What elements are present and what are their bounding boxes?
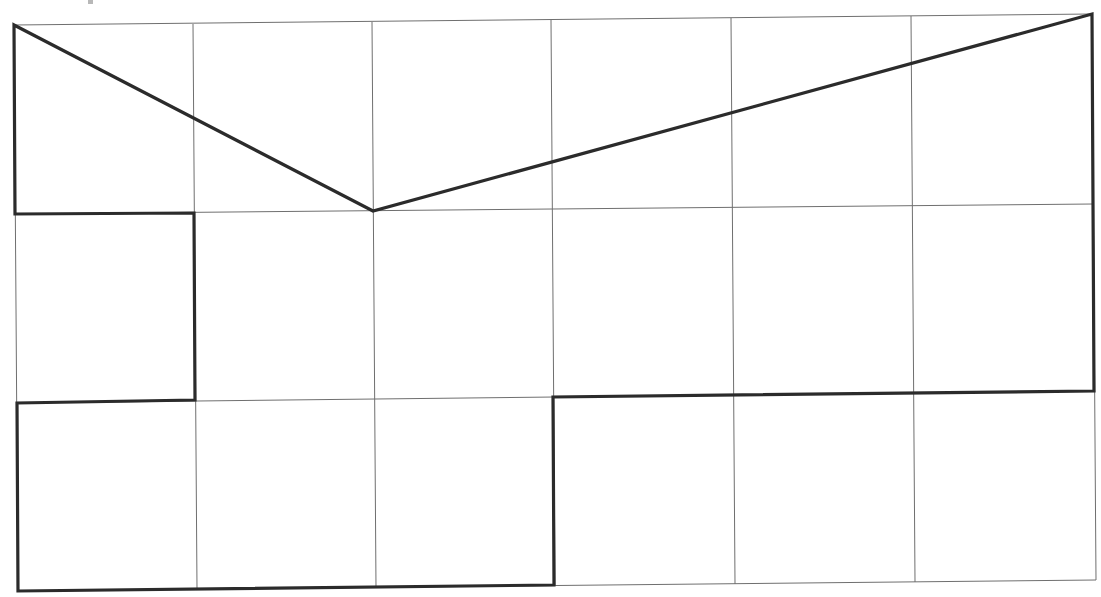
diagram-canvas	[0, 0, 1101, 597]
grid-vertical-line	[911, 16, 915, 582]
scan-artifact-mark	[88, 0, 93, 4]
grid-vertical-line	[372, 22, 376, 588]
grid-vertical-line	[731, 18, 735, 584]
grid-horizontal-line	[14, 14, 1092, 25]
outlined-polygon	[14, 14, 1094, 591]
